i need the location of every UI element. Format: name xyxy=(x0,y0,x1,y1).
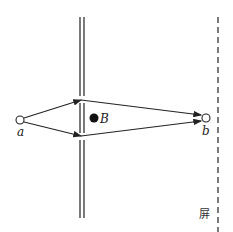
diagram-canvas: a b B 屏 xyxy=(0,0,233,232)
label-screen: 屏 xyxy=(199,208,210,221)
magnetic-field-dot-icon xyxy=(90,114,99,123)
label-b: b xyxy=(202,124,210,138)
electron-paths xyxy=(24,100,201,136)
label-a: a xyxy=(17,125,24,139)
detector-point-b xyxy=(202,114,210,122)
source-point-a xyxy=(16,116,24,124)
slit-barrier xyxy=(80,17,84,218)
label-B: B xyxy=(99,112,109,126)
